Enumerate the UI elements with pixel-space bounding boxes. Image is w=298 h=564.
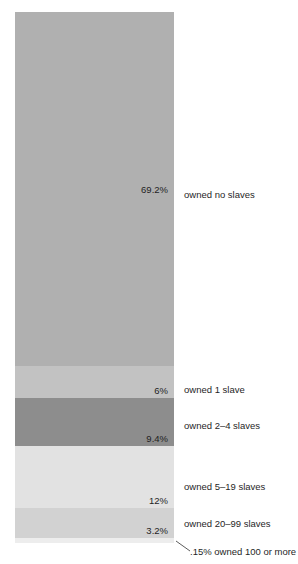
- bar-segment-hundred-or-more[interactable]: [15, 538, 174, 543]
- bar-segment-five-to-nineteen[interactable]: 12%: [15, 446, 174, 508]
- category-label-one-slave: owned 1 slave: [184, 384, 245, 395]
- segment-value-label: 69.2%: [141, 184, 168, 195]
- segment-value-label: 3.2%: [146, 525, 168, 536]
- segment-value-label: 12%: [149, 495, 168, 506]
- category-label-twenty-to-ninetynine: owned 20–99 slaves: [184, 518, 271, 529]
- bar-segment-no-slaves[interactable]: 69.2%: [15, 12, 174, 366]
- bar-segment-two-to-four[interactable]: 9.4%: [15, 398, 174, 446]
- bar-segment-one-slave[interactable]: 6%: [15, 366, 174, 398]
- category-label-two-to-four: owned 2–4 slaves: [184, 420, 260, 431]
- page-title: [0, 0, 298, 2]
- category-label-no-slaves: owned no slaves: [184, 189, 255, 200]
- stacked-bar-chart: 69.2% 6% 9.4% 12% 3.2%: [15, 12, 174, 543]
- segment-value-label: 6%: [154, 385, 168, 396]
- segment-value-label: 9.4%: [146, 433, 168, 444]
- category-label-five-to-nineteen: owned 5–19 slaves: [184, 481, 265, 492]
- bar-segment-twenty-to-ninetynine[interactable]: 3.2%: [15, 508, 174, 538]
- callout-label-hundred-or-more: .15% owned 100 or more: [190, 546, 296, 557]
